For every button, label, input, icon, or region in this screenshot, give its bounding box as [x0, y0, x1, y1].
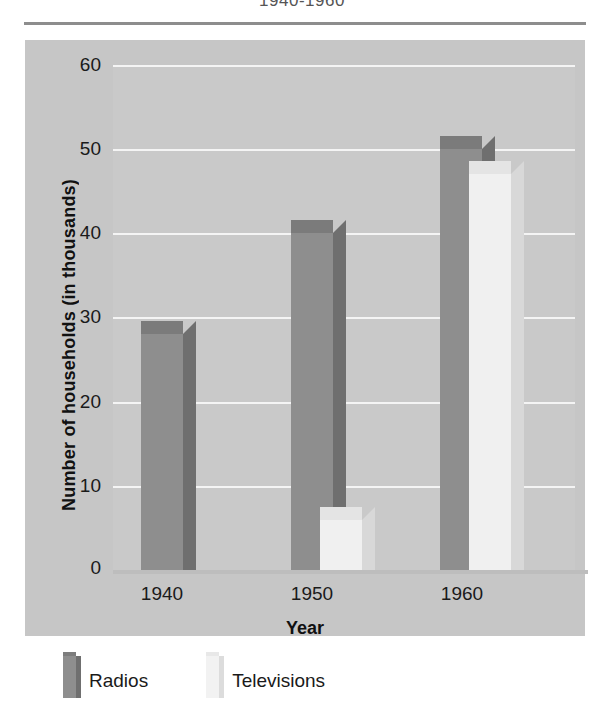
bar-top-face [291, 220, 333, 233]
legend-label-radios: Radios [89, 658, 148, 692]
title-divider-rule [24, 22, 586, 25]
bar-front-face [141, 334, 183, 570]
bar-top-face [141, 321, 183, 334]
legend-item-televisions[interactable]: Televisions [206, 652, 325, 698]
bar-top-face [469, 161, 511, 174]
x-axis-title: Year [25, 618, 585, 639]
bar-front-face [320, 520, 362, 570]
y-tick-label-30: 30 [80, 306, 101, 328]
chart-title: 1940-1960 [0, 0, 604, 11]
y-tick-label-60: 60 [80, 54, 101, 76]
gridline-60: 60 [113, 65, 575, 67]
bar-side-face [183, 334, 196, 570]
bar-side-face [362, 520, 375, 570]
legend-item-radios[interactable]: Radios [63, 652, 148, 698]
y-tick-label-10: 10 [80, 475, 101, 497]
bar-top-face [320, 507, 362, 520]
y-tick-label-0: 0 [90, 557, 101, 579]
swatch-side-face [219, 656, 224, 698]
plot-area: 60 50 40 30 20 10 0 [113, 65, 575, 570]
bar-televisions-1950[interactable] [320, 520, 362, 570]
bar-side-face [511, 174, 524, 570]
gridline-50: 50 [113, 149, 575, 151]
swatch-side-face [76, 656, 81, 698]
bar-televisions-1960[interactable] [469, 174, 511, 570]
chart-plot-panel: Number of households (in thousands) 60 5… [25, 40, 585, 636]
x-tick-label-1950: 1950 [291, 583, 333, 605]
y-tick-label-40: 40 [80, 222, 101, 244]
y-axis-title: Number of households (in thousands) [59, 80, 80, 610]
legend-swatch-televisions-icon [206, 652, 219, 698]
chart-legend: Radios Televisions [25, 652, 585, 702]
x-tick-label-1940: 1940 [141, 583, 183, 605]
y-tick-label-20: 20 [80, 391, 101, 413]
bar-front-face [469, 174, 511, 570]
legend-swatch-radios-icon [63, 652, 76, 698]
swatch-front-face [206, 656, 219, 698]
legend-label-televisions: Televisions [232, 658, 325, 692]
axis-baseline [113, 570, 588, 574]
bar-top-face [440, 136, 482, 149]
bar-radios-1940[interactable] [141, 334, 183, 570]
y-tick-label-50: 50 [80, 138, 101, 160]
swatch-front-face [63, 656, 76, 698]
x-tick-label-1960: 1960 [441, 583, 483, 605]
